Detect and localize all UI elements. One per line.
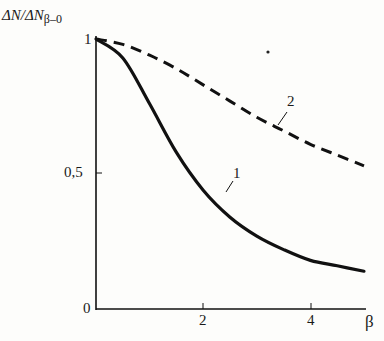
curve-2-label: 2: [287, 94, 295, 109]
curve-2-dashed: [96, 39, 364, 166]
print-speck: [266, 50, 269, 53]
curve-1-solid: [96, 39, 364, 271]
x-tick-label-2: 2: [199, 313, 207, 328]
y-axis-label: ΔN/ΔNβ–0: [2, 8, 62, 25]
y-tick-label-05: 0,5: [64, 165, 83, 180]
x-axis-label: β: [365, 313, 374, 330]
curve-1-leader: [226, 181, 233, 192]
curve-2-leader: [278, 112, 287, 125]
x-tick-label-4: 4: [307, 313, 315, 328]
y-tick-label-1: 1: [84, 32, 92, 47]
y-tick-label-0: 0: [83, 301, 91, 316]
curve-1-label: 1: [233, 166, 241, 181]
chart-canvas: [0, 0, 384, 341]
